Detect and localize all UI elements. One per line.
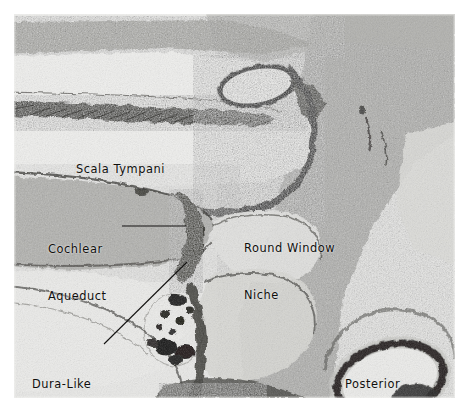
label-dura-like-structure-lining-cell: Dura-Like Structure Lining Cell [32,346,132,412]
label-round-window-niche: Round Window Niche [244,210,335,334]
label-cochlear-aqueduct-line-2: Aqueduct [48,289,107,305]
label-cochlear-aqueduct: Cochlear Aqueduct [48,211,107,335]
label-scala-tympani: Scala Tympani [76,131,165,209]
label-posterior-ampulla: Posterior Ampulla [345,346,400,412]
label-dura-like-line-1: Dura-Like [32,377,132,393]
label-round-window-niche-line-2: Niche [244,288,335,304]
figure-root: Scala Tympani Cochlear Aqueduct Round Wi… [0,0,470,412]
label-posterior-ampulla-line-1: Posterior [345,377,400,393]
label-cochlear-aqueduct-line-1: Cochlear [48,242,107,258]
label-round-window-niche-line-1: Round Window [244,241,335,257]
label-scala-tympani-line-1: Scala Tympani [76,162,165,178]
